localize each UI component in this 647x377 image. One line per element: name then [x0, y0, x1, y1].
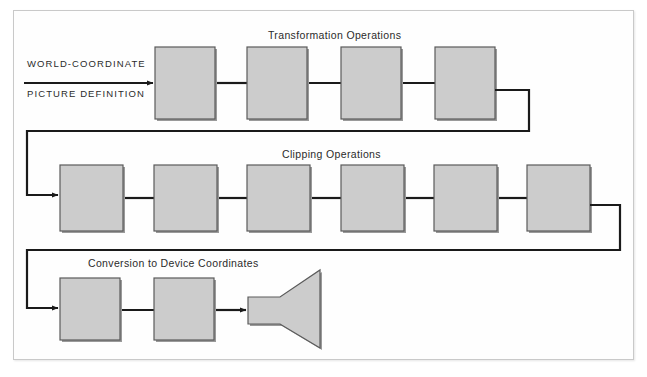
process-box	[247, 165, 310, 231]
process-box	[60, 278, 120, 340]
stage-label-conversion: Conversion to Device Coordinates	[88, 257, 259, 269]
process-box	[434, 165, 497, 231]
process-box	[527, 165, 590, 231]
input-label-line1: WORLD-COORDINATE	[27, 58, 146, 69]
diagram-canvas	[0, 0, 647, 377]
process-box	[154, 165, 217, 231]
crt-display-icon	[248, 270, 322, 350]
stage-label-clipping: Clipping Operations	[282, 148, 381, 160]
process-box	[154, 278, 214, 340]
input-label-line2: PICTURE DEFINITION	[27, 88, 145, 99]
process-box	[247, 47, 307, 119]
process-box	[155, 47, 215, 119]
process-box	[341, 165, 404, 231]
process-box	[60, 165, 123, 231]
process-box	[341, 47, 401, 119]
figure-root: WORLD-COORDINATE PICTURE DEFINITION Tran…	[0, 0, 647, 377]
stage-label-transformation: Transformation Operations	[268, 29, 401, 41]
process-box	[435, 47, 495, 119]
